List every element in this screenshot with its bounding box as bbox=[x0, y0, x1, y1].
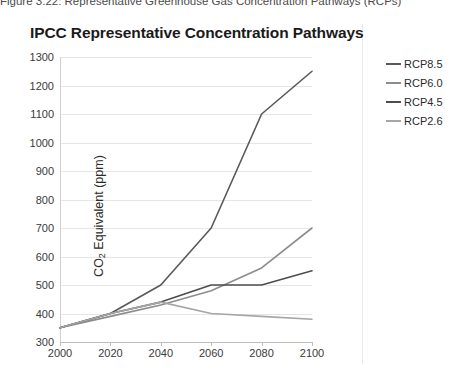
chart-title: IPCC Representative Concentration Pathwa… bbox=[30, 24, 363, 42]
chart-legend: RCP8.5RCP6.0RCP4.5RCP2.6 bbox=[386, 54, 466, 130]
legend-item[interactable]: RCP8.5 bbox=[386, 54, 466, 73]
x-axis-tick-mark bbox=[312, 342, 313, 346]
x-axis-tick-label: 2000 bbox=[48, 347, 72, 359]
card-divider bbox=[362, 24, 363, 364]
series-line-rcp8.5 bbox=[60, 71, 312, 328]
series-lines bbox=[60, 57, 312, 342]
x-axis-tick-label: 2100 bbox=[300, 347, 324, 359]
y-axis-tick-label: 400 bbox=[36, 308, 54, 320]
plot-area: CO2 Equivalent (ppm) bbox=[60, 57, 312, 342]
y-axis-tick-label: 1200 bbox=[30, 80, 54, 92]
legend-label: RCP4.5 bbox=[404, 96, 443, 108]
legend-item[interactable]: RCP4.5 bbox=[386, 92, 466, 111]
y-axis-tick-label: 900 bbox=[36, 165, 54, 177]
series-line-rcp6.0 bbox=[60, 228, 312, 328]
x-axis-tick-label: 2040 bbox=[149, 347, 173, 359]
legend-label: RCP2.6 bbox=[404, 115, 443, 127]
x-axis-tick-mark bbox=[262, 342, 263, 346]
legend-line-icon bbox=[386, 120, 401, 122]
figure-caption-text: Figure 3.22: Representative Greenhouse G… bbox=[0, 0, 401, 7]
y-axis-tick-label: 500 bbox=[36, 279, 54, 291]
x-axis-tick-label: 2060 bbox=[199, 347, 223, 359]
x-axis-tick-labels: 200020202040206020802100 bbox=[60, 347, 312, 363]
x-axis-tick-label: 2020 bbox=[98, 347, 122, 359]
y-axis-tick-label: 700 bbox=[36, 222, 54, 234]
x-axis-tick-mark bbox=[211, 342, 212, 346]
chart-card: IPCC Representative Concentration Pathwa… bbox=[0, 10, 466, 379]
x-axis-tick-mark bbox=[161, 342, 162, 346]
series-line-rcp2.6 bbox=[60, 302, 312, 328]
figure-caption-clipped: Figure 3.22: Representative Greenhouse G… bbox=[0, 0, 466, 9]
x-axis-tick-mark bbox=[110, 342, 111, 346]
legend-line-icon bbox=[386, 82, 401, 84]
legend-item[interactable]: RCP6.0 bbox=[386, 73, 466, 92]
legend-label: RCP8.5 bbox=[404, 58, 443, 70]
x-axis-tick-mark bbox=[60, 342, 61, 346]
legend-item[interactable]: RCP2.6 bbox=[386, 111, 466, 130]
y-axis-tick-labels: 3004005006007008009001000110012001300 bbox=[0, 57, 54, 342]
y-axis-tick-label: 1100 bbox=[30, 108, 54, 120]
legend-line-icon bbox=[386, 101, 401, 103]
y-axis-tick-label: 1000 bbox=[30, 137, 54, 149]
x-axis-tick-label: 2080 bbox=[249, 347, 273, 359]
legend-label: RCP6.0 bbox=[404, 77, 443, 89]
y-axis-tick-label: 800 bbox=[36, 194, 54, 206]
x-axis-line bbox=[60, 342, 312, 343]
y-axis-tick-label: 600 bbox=[36, 251, 54, 263]
legend-line-icon bbox=[386, 63, 401, 65]
y-axis-tick-label: 1300 bbox=[30, 51, 54, 63]
